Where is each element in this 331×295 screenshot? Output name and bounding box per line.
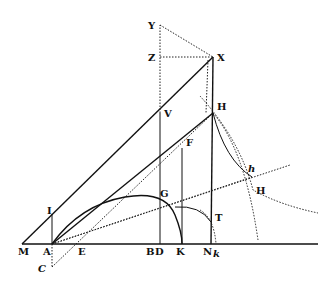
label-B: B — [146, 246, 154, 257]
line-XN — [211, 57, 213, 244]
label-H2: H — [256, 185, 265, 196]
label-G: G — [160, 188, 169, 199]
line-YX — [160, 25, 213, 57]
line-AH — [52, 113, 213, 244]
arc-Tk — [200, 210, 216, 244]
label-k: k — [213, 248, 220, 259]
line-XH-dotted — [206, 60, 208, 113]
curve-AGK — [52, 195, 182, 244]
label-A: A — [42, 246, 51, 257]
label-T: T — [215, 212, 223, 223]
label-I: I — [47, 205, 52, 216]
label-X: X — [217, 52, 225, 63]
geometric-diagram: Y Z X V H F h H G I T M A E B D K N k C — [0, 0, 331, 295]
label-K: K — [176, 246, 185, 257]
label-H1: H — [217, 101, 226, 112]
label-C: C — [38, 263, 46, 274]
line-A-far — [52, 165, 290, 244]
label-Y: Y — [147, 20, 156, 31]
label-E: E — [78, 246, 86, 257]
label-Z: Z — [148, 52, 155, 63]
label-V: V — [163, 108, 172, 119]
label-F: F — [186, 137, 193, 148]
label-h: h — [248, 163, 255, 174]
label-D: D — [155, 246, 164, 257]
label-N: N — [203, 246, 212, 257]
label-M: M — [18, 246, 29, 257]
